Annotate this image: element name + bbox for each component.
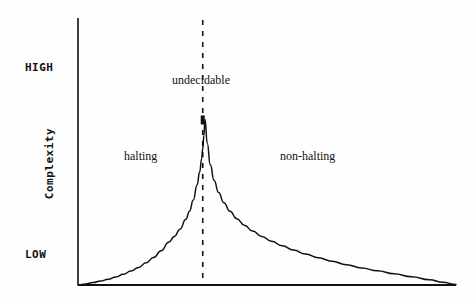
region-label-undecidable: undecidable	[172, 73, 230, 88]
peak-marker	[201, 115, 205, 124]
y-axis-tick-low: LOW	[25, 248, 46, 261]
y-axis-tick-high: HIGH	[25, 61, 54, 74]
chart-canvas	[0, 0, 476, 304]
region-label-non-halting: non-halting	[280, 149, 335, 164]
chart-figure: HIGH LOW Complexity halting undecidable …	[0, 0, 476, 304]
y-axis-title: Complexity	[43, 109, 56, 219]
region-label-halting: halting	[124, 149, 157, 164]
complexity-curve	[78, 119, 456, 285]
